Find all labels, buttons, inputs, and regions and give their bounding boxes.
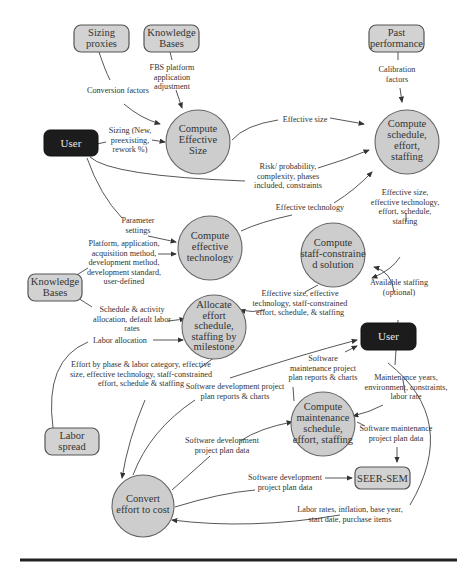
label-maint-reports: Softwaremaintenance projectplan reports …: [289, 354, 358, 382]
label-dev-data-1: Software developmentproject plan data: [185, 436, 260, 455]
label-conversion-factors: Conversion factors: [87, 86, 149, 95]
svg-text:Computeeffectivetechnology: Computeeffectivetechnology: [187, 230, 234, 263]
node-past-performance[interactable]: Pastperformance: [369, 25, 424, 52]
node-compute-effective-technology[interactable]: Computeeffectivetechnology: [178, 216, 242, 280]
edge-sizing-arrow: [152, 140, 165, 142]
label-parameter-settings: Parametersettings: [121, 216, 154, 235]
svg-text:Laborspread: Laborspread: [58, 430, 86, 452]
edge-eff-tech-b: [334, 172, 372, 203]
label-maint-data: Software maintenanceproject plan data: [360, 424, 433, 443]
node-knowledge-bases-top[interactable]: KnowledgeBases: [144, 25, 199, 52]
svg-text:SEER-SEM: SEER-SEM: [357, 473, 408, 484]
label-schedule-outputs: Effective size,effective technology,effo…: [371, 188, 439, 226]
label-dev-data-2: Software developmentproject plan data: [248, 473, 323, 492]
label-staff-outputs: Effective size, effectivetechnology, sta…: [253, 289, 348, 317]
label-fbs-platform: FBS platformapplicationadjustment: [150, 63, 195, 91]
edge-maintyears-arrow: [353, 405, 383, 416]
edge-labor-spread: [51, 342, 88, 428]
node-user-right[interactable]: User: [361, 323, 416, 350]
node-compute-staff-constrained[interactable]: Computestaff-constrained solution: [300, 223, 365, 287]
edge-convert-devdata2: [175, 490, 255, 507]
label-effective-technology: Effective technology: [276, 203, 345, 212]
edge-sizing-proxies: [99, 52, 110, 80]
label-schedule-activity: Schedule & activityallocation, default l…: [93, 305, 171, 333]
edge-convert-devdata: [172, 456, 210, 490]
edge-maint-reports: [345, 346, 357, 352]
edge-calibration: [400, 88, 402, 102]
svg-text:User: User: [61, 137, 82, 149]
node-convert-effort[interactable]: Converteffort to cost: [112, 475, 174, 537]
edge-effective-size-a: [232, 120, 278, 140]
svg-text:Sizingproxies: Sizingproxies: [86, 27, 117, 49]
label-calibration: Calibrationfactors: [379, 65, 416, 84]
edge-user-param: [87, 158, 122, 218]
label-labor-allocation: Labor allocation: [93, 336, 147, 345]
node-compute-schedule[interactable]: Computeschedule,effort,staffing: [375, 110, 439, 174]
node-sizing-proxies[interactable]: Sizingproxies: [74, 25, 129, 52]
node-compute-maintenance[interactable]: Computemaintenanceschedule,effort, staff…: [291, 392, 355, 456]
label-effective-size: Effective size: [283, 115, 328, 124]
node-knowledge-bases-left[interactable]: KnowledgeBases: [28, 274, 82, 301]
label-dev-reports: Software development projectplan reports…: [186, 382, 285, 401]
node-allocate-effort[interactable]: Allocateeffortschedule,staffing bymilest…: [182, 295, 246, 359]
edge-effective-size-b: [330, 118, 364, 124]
edge-conversion-factors: [124, 104, 160, 124]
node-user-top[interactable]: User: [44, 130, 98, 156]
label-platform: Platform, application,acquisition method…: [87, 239, 161, 286]
edge-risk-arrow: [318, 150, 369, 168]
node-labor-spread[interactable]: Laborspread: [45, 428, 99, 455]
node-seer-sem[interactable]: SEER-SEM: [355, 467, 410, 489]
svg-text:User: User: [378, 330, 399, 342]
edge-maint-to-user: [293, 387, 294, 401]
label-sizing: Sizing (New,preexisting,rework %): [109, 126, 152, 154]
label-risk: Risk/ probability,complexity, phasesincl…: [254, 162, 322, 190]
node-compute-effective-size[interactable]: ComputeEffectiveSize: [166, 110, 230, 174]
label-available-staffing: Available staffing(optional): [370, 278, 428, 297]
edge-eff-tech-a: [241, 215, 292, 231]
edge-fbs: [176, 90, 182, 108]
edge-effort-to-convert: [122, 400, 145, 478]
flow-diagram: Sizingproxies KnowledgeBases Pastperform…: [0, 0, 469, 572]
edge-kb-top: [170, 52, 172, 60]
label-maintenance-years: Maintenance years,environment, constrain…: [365, 373, 448, 401]
label-labor-rates: Labor rates, inflation, base year,start …: [297, 505, 402, 524]
svg-text:Allocateeffortschedule,staffin: Allocateeffortschedule,staffing bymilest…: [191, 299, 237, 352]
